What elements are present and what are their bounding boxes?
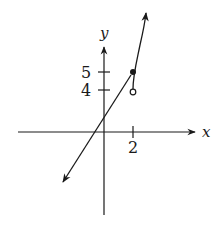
- right-piece-curve: [133, 13, 146, 89]
- open-dot: [130, 89, 136, 95]
- y-tick-label-5: 5: [81, 63, 91, 82]
- piecewise-function-graph: x y 5 4 2: [0, 0, 219, 225]
- y-tick-label-4: 4: [81, 81, 91, 100]
- y-axis-label: y: [99, 24, 109, 42]
- left-piece-line: [63, 75, 131, 182]
- x-axis-label: x: [202, 123, 211, 141]
- x-tick-label-2: 2: [128, 138, 138, 157]
